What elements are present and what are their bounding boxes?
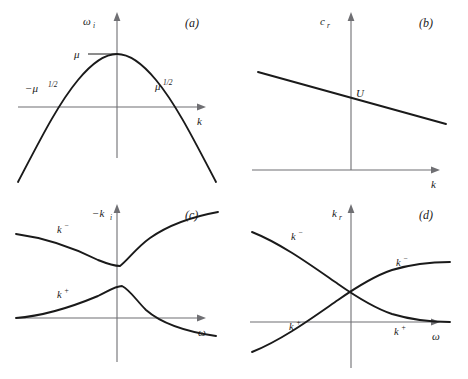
panel-c: −k i ω k − k + (c) — [0, 190, 234, 379]
panel-b-x-axis-label: k — [431, 178, 437, 189]
panel-c-letter: (c) — [185, 208, 198, 222]
panel-a: ω i k μ −μ 1/2 μ 1/2 (a) — [0, 0, 234, 189]
panel-b-x-axis-arrowhead — [431, 167, 440, 174]
figure-container: ω i k μ −μ 1/2 μ 1/2 (a) c — [0, 0, 468, 379]
panel-d-plot: k r ω k − k − k + k + (d) — [234, 190, 468, 379]
panel-d-letter: (d) — [419, 208, 433, 222]
panel-a-y-axis-label: ω — [83, 15, 91, 27]
panel-a-x-axis-label: k — [197, 115, 203, 127]
panel-d-y-axis-label-sub: r — [339, 213, 342, 222]
panel-b: c r k U (b) — [234, 0, 468, 189]
panel-a-plot: ω i k μ −μ 1/2 μ 1/2 (a) — [0, 0, 234, 189]
panel-d-k-plus-right-label-sup: + — [401, 323, 406, 332]
panel-c-k-minus-label: k — [57, 224, 62, 235]
panel-a-y-axis-label-sub: i — [93, 21, 95, 30]
panel-d-k-plus-left-label-sup: + — [296, 318, 301, 327]
panel-b-y-axis-label: c — [320, 15, 325, 27]
panel-c-k-plus-curve — [16, 286, 216, 336]
panel-b-y-axis-arrowhead — [348, 12, 355, 21]
right-root-label-sup: 1/2 — [163, 78, 173, 87]
panel-d-k-plus-right-label: k — [394, 326, 399, 337]
panel-b-y-axis-label-sub: r — [327, 21, 330, 30]
peak-value-label: μ — [73, 48, 80, 60]
panel-a-x-axis-arrowhead — [197, 104, 206, 111]
panel-d-k-minus-right-label: k — [396, 257, 401, 268]
panel-c-k-plus-label-sup: + — [64, 286, 69, 295]
panel-c-k-plus-label: k — [57, 289, 62, 300]
panel-b-letter: (b) — [419, 16, 433, 30]
panel-c-y-axis-label-sub: i — [110, 213, 112, 222]
panel-c-x-axis-label: ω — [198, 326, 206, 338]
panel-d-k-plus-left-label: k — [289, 321, 294, 332]
panel-b-plot: c r k U (b) — [234, 0, 468, 189]
left-root-label: −μ — [25, 82, 38, 94]
panel-a-letter: (a) — [185, 16, 199, 30]
left-root-label-sup: 1/2 — [48, 80, 58, 89]
panel-c-y-axis-label: −k — [92, 207, 105, 219]
panel-d-x-axis-label: ω — [432, 330, 440, 342]
panel-d-k-minus-left-label: k — [291, 231, 296, 242]
panel-c-plot: −k i ω k − k + (c) — [0, 190, 234, 379]
panel-c-x-axis-arrowhead — [197, 315, 206, 322]
right-root-label: μ — [154, 80, 161, 92]
panel-d-k-minus-right-label-sup: − — [403, 254, 408, 263]
panel-a-y-axis-arrowhead — [114, 12, 121, 21]
panel-d: k r ω k − k − k + k + (d) — [234, 190, 468, 379]
panel-d-y-axis-label: k — [332, 207, 338, 219]
intercept-point-label: U — [356, 87, 365, 99]
panel-d-y-axis-arrowhead — [348, 204, 355, 213]
panel-d-k-minus-left-label-sup: − — [298, 228, 303, 237]
cr-line — [258, 72, 446, 124]
panel-c-y-axis-arrowhead — [114, 204, 121, 213]
panel-c-k-minus-label-sup: − — [64, 221, 69, 230]
